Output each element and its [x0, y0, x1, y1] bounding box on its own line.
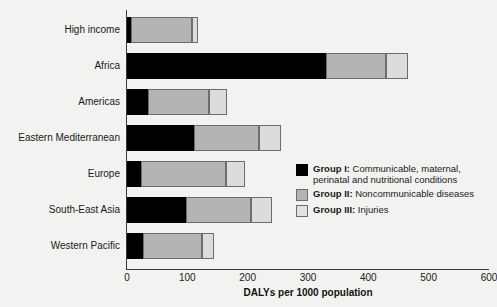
- legend-label-group-3-bold: Group III:: [313, 204, 355, 215]
- x-tick-label: 500: [420, 272, 437, 283]
- bar-segment-group-ii: [194, 125, 259, 151]
- bar-segment-group-iii: [192, 17, 197, 43]
- bar-segment-group-i: [127, 197, 186, 223]
- bar-segment-group-ii: [143, 233, 202, 259]
- bar-segment-group-iii: [209, 89, 226, 115]
- bar-segment-group-i: [127, 125, 194, 151]
- x-tick-label: 300: [300, 272, 317, 283]
- legend-swatch-group-1-icon: [296, 164, 308, 176]
- legend-label-group-1-bold: Group I:: [313, 163, 350, 174]
- category-label: High income: [0, 24, 120, 35]
- bar-segment-group-ii: [326, 53, 386, 79]
- legend-item-group-3: Group III: Injuries: [296, 204, 494, 217]
- x-tick-label: 0: [124, 272, 130, 283]
- legend-item-group-2: Group II: Noncommunicable diseases: [296, 188, 494, 201]
- x-tick-label: 200: [239, 272, 256, 283]
- x-tick-label: 400: [360, 272, 377, 283]
- bar-segment-group-iii: [202, 233, 215, 259]
- x-axis-line: [126, 269, 489, 270]
- category-label: Western Pacific: [0, 240, 120, 251]
- category-label: Americas: [0, 96, 120, 107]
- x-axis-title: DALYs per 1000 population: [127, 287, 489, 298]
- legend-label-group-3-line1: Injuries: [355, 204, 388, 215]
- x-tick-label: 600: [481, 272, 497, 283]
- bar-segment-group-i: [127, 53, 326, 79]
- legend-label-group-3: Group III: Injuries: [313, 204, 388, 215]
- plot-area: [127, 12, 489, 268]
- chart-legend: Group I: Communicable, maternal, perinat…: [296, 163, 494, 220]
- bar-segment-group-iii: [226, 161, 245, 187]
- bar-segment-group-ii: [131, 17, 192, 43]
- legend-label-group-2-bold: Group II:: [313, 188, 353, 199]
- bar-segment-group-iii: [251, 197, 272, 223]
- legend-label-group-2-line1: Noncommunicable diseases: [353, 188, 474, 199]
- category-label: Africa: [0, 60, 120, 71]
- legend-label-group-1: Group I: Communicable, maternal, perinat…: [313, 163, 461, 185]
- legend-item-group-1: Group I: Communicable, maternal, perinat…: [296, 163, 494, 185]
- legend-label-group-2: Group II: Noncommunicable diseases: [313, 188, 474, 199]
- bar-segment-group-iii: [259, 125, 282, 151]
- bar-segment-group-i: [127, 161, 141, 187]
- legend-label-group-1-line1: Communicable, maternal,: [350, 163, 461, 174]
- legend-swatch-group-3-icon: [296, 205, 308, 217]
- bar-segment-group-i: [127, 89, 148, 115]
- bar-segment-group-ii: [141, 161, 226, 187]
- legend-label-group-1-line2: perinatal and nutritional conditions: [313, 174, 457, 185]
- category-label: Europe: [0, 168, 120, 179]
- category-label: South-East Asia: [0, 204, 120, 215]
- bar-segment-group-iii: [386, 53, 407, 79]
- bar-segment-group-i: [127, 233, 143, 259]
- legend-swatch-group-2-icon: [296, 189, 308, 201]
- bar-segment-group-ii: [148, 89, 210, 115]
- bar-segment-group-ii: [186, 197, 251, 223]
- category-label: Eastern Mediterranean: [0, 132, 120, 143]
- x-tick-label: 100: [179, 272, 196, 283]
- chart-figure: High incomeAfricaAmericasEastern Mediter…: [0, 0, 497, 307]
